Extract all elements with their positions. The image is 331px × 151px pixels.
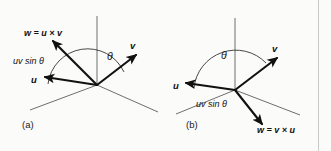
panel-b-magnitude-label: uv sin θ xyxy=(196,100,227,109)
figure-right-border xyxy=(318,0,319,151)
panel-b-vector-u-label: u xyxy=(173,81,179,91)
panel-a-cross-product-label: w = u × v xyxy=(24,29,62,38)
panel-a-ground-axis-left xyxy=(30,85,97,110)
cross-product-figure: w = u × v uv sin θ θ v u (a) θ v u uv si… xyxy=(0,0,331,151)
panel-b-vector-v-label: v xyxy=(272,44,277,54)
panel-a-vector-u-label: u xyxy=(31,75,37,85)
panel-a-ground-axis-right xyxy=(97,85,158,112)
panel-a-vector-v-label: v xyxy=(130,41,135,51)
panel-b-graphics xyxy=(176,18,300,124)
panel-b-angle-label: θ xyxy=(221,50,227,61)
panel-b-vector-u xyxy=(186,83,235,90)
panel-a-magnitude-label: uv sin θ xyxy=(13,57,44,66)
panel-a-angle-label: θ xyxy=(107,51,113,62)
panel-b-cross-product-label: w = v × u xyxy=(257,126,295,135)
panel-b-caption: (b) xyxy=(186,120,198,130)
panel-b-vector-v xyxy=(235,58,277,90)
panel-b-angle-arc xyxy=(194,50,266,88)
panel-a-vector-v xyxy=(97,55,136,85)
panel-a-caption: (a) xyxy=(22,120,34,130)
